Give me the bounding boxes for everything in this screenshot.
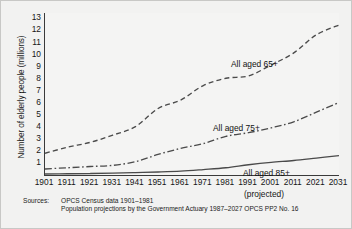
series-label-75plus: All aged 75+ bbox=[213, 123, 260, 133]
y-tick-7: 7 bbox=[25, 86, 41, 95]
y-tick-10: 10 bbox=[25, 50, 41, 59]
y-tick-12: 12 bbox=[25, 25, 41, 34]
y-axis-tick-labels: 12345678910111213 bbox=[23, 13, 41, 175]
sources-line-2: Population projections by the Government… bbox=[61, 205, 343, 213]
x-tick-2021: 2021 bbox=[306, 177, 325, 188]
y-tick-2: 2 bbox=[25, 146, 41, 155]
x-tick-1991: 1991 bbox=[238, 177, 257, 188]
x-tick-2011: 2011 bbox=[284, 177, 302, 188]
y-tick-1: 1 bbox=[25, 158, 41, 167]
series-label-65plus: All aged 65+ bbox=[231, 59, 278, 69]
x-tick-1951: 1951 bbox=[148, 177, 167, 188]
y-tick-13: 13 bbox=[25, 13, 41, 22]
series-line-85plus bbox=[45, 156, 339, 174]
chart-figure: Number of elderly people (millions) 1234… bbox=[0, 0, 352, 229]
x-tick-1901: 1901 bbox=[35, 177, 54, 188]
plot-area: All aged 65+ All aged 75+ All aged 85+ bbox=[44, 13, 339, 176]
y-tick-8: 8 bbox=[25, 74, 41, 83]
y-tick-3: 3 bbox=[25, 134, 41, 143]
x-tick-2031: 2031 bbox=[329, 177, 348, 188]
chart-lines bbox=[45, 13, 339, 175]
x-tick-1971: 1971 bbox=[193, 177, 212, 188]
x-tick-1981: 1981 bbox=[216, 177, 235, 188]
y-tick-5: 5 bbox=[25, 110, 41, 119]
sources-block: Sources: OPCS Census data 1901–1981 Popu… bbox=[23, 197, 343, 213]
y-tick-6: 6 bbox=[25, 98, 41, 107]
y-tick-4: 4 bbox=[25, 122, 41, 131]
sources-line-1: OPCS Census data 1901–1981 bbox=[61, 197, 343, 205]
series-line-65plus bbox=[45, 25, 339, 153]
x-tick-1911: 1911 bbox=[58, 177, 76, 188]
x-tick-1961: 1961 bbox=[170, 177, 189, 188]
sources-label: Sources: bbox=[23, 197, 61, 205]
x-tick-1941: 1941 bbox=[125, 177, 144, 188]
x-tick-2001: 2001 bbox=[261, 177, 280, 188]
x-axis-tick-labels: 1901191119211931194119511961197119811991… bbox=[44, 177, 344, 189]
series-line-75plus bbox=[45, 102, 339, 169]
y-tick-11: 11 bbox=[25, 38, 41, 47]
y-tick-9: 9 bbox=[25, 62, 41, 71]
x-tick-1931: 1931 bbox=[103, 177, 122, 188]
x-tick-1921: 1921 bbox=[80, 177, 99, 188]
